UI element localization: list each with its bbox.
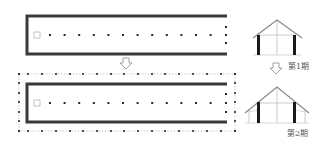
center-post	[64, 34, 66, 36]
outer-post	[164, 73, 166, 75]
center-post	[64, 102, 66, 104]
phase1-label: 第1期	[288, 60, 309, 71]
outer-post	[234, 101, 236, 103]
end-post	[225, 42, 227, 44]
center-post	[49, 34, 51, 36]
outer-post	[18, 111, 20, 113]
center-post	[78, 34, 80, 36]
right-aisle-beam	[296, 110, 305, 112]
outer-post	[18, 82, 20, 84]
end-post	[225, 34, 227, 36]
center-post	[210, 34, 212, 36]
outer-post	[110, 73, 112, 75]
outer-post	[18, 73, 20, 75]
outer-post	[192, 73, 194, 75]
end-post	[225, 111, 227, 113]
phase1-cross-section	[253, 20, 302, 55]
right-wall	[293, 35, 296, 55]
center-post	[210, 102, 212, 104]
outer-post	[151, 73, 153, 75]
outer-post	[137, 73, 139, 75]
center-post	[122, 34, 124, 36]
center-post	[78, 102, 80, 104]
center-post	[49, 102, 51, 104]
outer-post	[82, 130, 84, 132]
hearth-square	[34, 100, 40, 106]
outer-post	[234, 92, 236, 94]
center-post	[107, 34, 109, 36]
outer-post	[69, 130, 71, 132]
center-post	[93, 102, 95, 104]
center-post	[180, 102, 182, 104]
outer-post	[123, 130, 125, 132]
center-post	[122, 102, 124, 104]
outer-post	[69, 73, 71, 75]
right-wall	[293, 102, 296, 123]
phase2-label: 第2期	[287, 127, 308, 138]
outer-post	[55, 130, 57, 132]
outer-post	[234, 130, 236, 132]
outer-post	[27, 130, 29, 132]
outer-post	[27, 73, 29, 75]
down-arrow-icon	[270, 63, 282, 74]
outer-post	[234, 82, 236, 84]
transition-arrows	[120, 58, 282, 74]
end-post	[225, 102, 227, 104]
outer-post	[55, 73, 57, 75]
outer-post	[220, 73, 222, 75]
phase1-floor-plan	[27, 16, 227, 54]
outer-post	[220, 130, 222, 132]
outer-post	[137, 130, 139, 132]
center-post	[137, 34, 139, 36]
center-post	[151, 34, 153, 36]
outer-post	[234, 120, 236, 122]
center-post	[166, 34, 168, 36]
outer-post	[82, 73, 84, 75]
phase2-floor-plan	[18, 73, 236, 132]
outer-post	[41, 73, 43, 75]
center-post	[166, 102, 168, 104]
outer-post	[18, 92, 20, 94]
outer-post	[178, 130, 180, 132]
center-post	[151, 102, 153, 104]
end-post	[225, 93, 227, 95]
outer-post	[234, 111, 236, 113]
center-post	[195, 34, 197, 36]
center-post	[180, 34, 182, 36]
outer-post	[96, 73, 98, 75]
phase2-cross-section	[245, 87, 309, 123]
outer-post	[192, 130, 194, 132]
end-post	[225, 26, 227, 28]
left-wall	[257, 35, 260, 55]
center-post	[107, 102, 109, 104]
outer-post	[18, 101, 20, 103]
outer-post	[151, 130, 153, 132]
center-post	[137, 102, 139, 104]
left-wall	[257, 102, 260, 123]
outer-post	[18, 120, 20, 122]
longhouse-diagram	[0, 0, 330, 143]
outer-post	[96, 130, 98, 132]
outer-post	[206, 130, 208, 132]
outer-post	[123, 73, 125, 75]
outer-post	[18, 130, 20, 132]
center-post	[195, 102, 197, 104]
outer-post	[178, 73, 180, 75]
outer-post	[164, 130, 166, 132]
left-aisle-beam	[249, 110, 258, 112]
center-post	[93, 34, 95, 36]
outer-post	[206, 73, 208, 75]
down-arrow-icon	[120, 58, 132, 69]
outer-post	[234, 73, 236, 75]
outer-post	[110, 130, 112, 132]
hearth-square	[34, 32, 40, 38]
outer-post	[41, 130, 43, 132]
